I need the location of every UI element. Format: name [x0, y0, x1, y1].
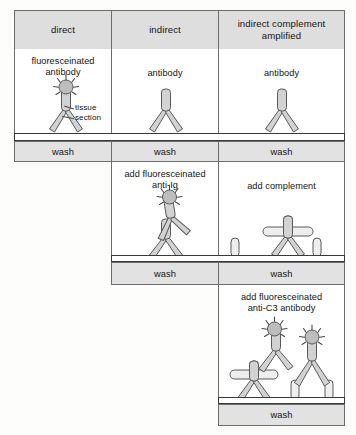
- wash-indirect-1: wash: [111, 141, 219, 162]
- column-header-indirect-label: indirect: [149, 24, 181, 36]
- panel-indirect-step1-caption: antibody: [112, 68, 218, 79]
- panel-indirect-step2: add fluoresceinated anti-Ig: [111, 161, 219, 259]
- antibody-with-complement-glyph: [255, 210, 323, 260]
- fluorophore-icon: [305, 330, 319, 344]
- tissue-section-slab-row3: [218, 397, 345, 404]
- panel-amplified-step3: add fluoresceinated anti-C3 antibody: [218, 284, 345, 403]
- panel-direct-step1: fluoresceinated antibody: [14, 49, 112, 136]
- panel-amplified-step1-caption: antibody: [219, 68, 344, 79]
- wash-label: wash: [154, 147, 176, 157]
- fluorophore-icon: [268, 322, 282, 336]
- tissue-section-slab-row1: [14, 133, 345, 141]
- wash-amplified-3: wash: [218, 404, 345, 426]
- panel-amplified-step2-caption: add complement: [219, 181, 344, 192]
- tissue-section-label: tissue section: [75, 103, 101, 122]
- wash-amplified-2: wash: [218, 262, 345, 285]
- wash-label: wash: [270, 147, 292, 157]
- panel-indirect-step1: antibody: [111, 49, 219, 136]
- immunofluorescence-diagram: direct indirect indirect complement ampl…: [0, 0, 356, 435]
- wash-label: wash: [270, 269, 292, 279]
- anti-c3-on-free-complement-glyph: [285, 318, 343, 404]
- column-header-direct: direct: [14, 10, 112, 50]
- panel-amplified-step1: antibody: [218, 49, 345, 136]
- column-header-indirect: indirect: [111, 10, 219, 50]
- fluorophore-icon: [163, 190, 177, 204]
- wash-label: wash: [270, 410, 292, 420]
- wash-indirect-2: wash: [111, 262, 219, 285]
- panel-amplified-step2: add complement: [218, 161, 345, 259]
- panel-amplified-step3-caption: add fluoresceinated anti-C3 antibody: [219, 292, 344, 315]
- column-header-direct-label: direct: [51, 24, 75, 36]
- column-header-amplified-label: indirect complement amplified: [238, 18, 326, 41]
- tissue-section-slab-row2: [111, 255, 345, 262]
- antibody-glyph: [141, 85, 191, 135]
- anti-ig-on-antibody-glyph: [136, 189, 202, 261]
- antibody-glyph: [257, 85, 307, 135]
- panel-direct-step1-caption: fluoresceinated antibody: [15, 56, 111, 79]
- column-header-amplified: indirect complement amplified: [218, 10, 345, 50]
- fluorophore-icon: [59, 80, 73, 94]
- wash-direct-1: wash: [14, 141, 112, 162]
- wash-label: wash: [52, 147, 74, 157]
- wash-amplified-1: wash: [218, 141, 345, 162]
- wash-label: wash: [154, 269, 176, 279]
